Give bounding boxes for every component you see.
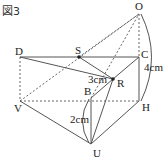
- edge-BO: [91, 14, 139, 98]
- measure-BU: 2cm: [70, 113, 89, 125]
- measure-SR: 3cm: [88, 73, 107, 85]
- label-V: V: [14, 102, 22, 114]
- label-U: U: [93, 147, 101, 159]
- label-R: R: [117, 77, 125, 89]
- geometry-figure: 図3 O D S C R B V H U 4cm 3cm 2cm: [0, 0, 168, 163]
- solid-edges: [20, 57, 139, 144]
- point-R: [111, 77, 115, 81]
- label-B: B: [84, 85, 91, 97]
- label-S: S: [75, 44, 81, 56]
- label-O: O: [135, 0, 143, 12]
- label-D: D: [15, 45, 23, 57]
- label-H: H: [142, 101, 150, 113]
- measure-OC: 4cm: [144, 61, 163, 73]
- label-C: C: [141, 48, 148, 60]
- edge-CR: [113, 57, 139, 79]
- figure-title: 図3: [2, 5, 20, 18]
